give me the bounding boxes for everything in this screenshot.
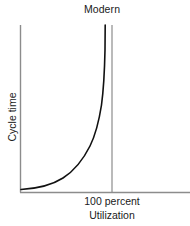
x-tick-label-100-percent: 100 percent (52, 195, 172, 207)
x-axis-label: Utilization (52, 209, 172, 221)
plot-area (0, 0, 190, 226)
chart-container: Modern Cycle time 100 percent Utilizatio… (0, 0, 190, 226)
cycle-time-curve (21, 25, 105, 190)
y-axis-label: Cycle time (6, 77, 18, 157)
